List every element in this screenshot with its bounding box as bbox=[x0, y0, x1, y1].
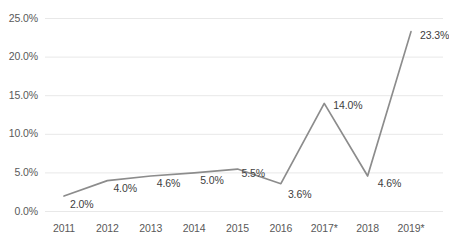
x-axis-tick-label: 2017* bbox=[311, 222, 338, 234]
y-axis-tick-label: 25.0% bbox=[0, 12, 38, 24]
x-axis-tick-label: 2012 bbox=[96, 222, 119, 234]
y-axis-tick-label: 15.0% bbox=[0, 89, 38, 101]
x-axis-tick-label: 2011 bbox=[53, 222, 75, 234]
x-axis-tick-label: 2015 bbox=[226, 222, 249, 234]
x-axis-tick-label: 2013 bbox=[139, 222, 162, 234]
x-axis-tick-label: 2016 bbox=[269, 222, 292, 234]
y-axis-tick-label: 20.0% bbox=[0, 50, 38, 62]
data-point-label: 4.6% bbox=[157, 177, 181, 189]
data-point-label: 23.3% bbox=[420, 29, 449, 41]
x-axis-tick-label: 2018 bbox=[356, 222, 379, 234]
data-point-label: 4.6% bbox=[378, 177, 402, 189]
data-point-label: 5.5% bbox=[242, 167, 266, 179]
data-series-line bbox=[64, 32, 411, 196]
y-axis-tick-label: 5.0% bbox=[0, 166, 38, 178]
y-axis-tick-label: 0.0% bbox=[0, 205, 38, 217]
x-axis-tick-label: 2014 bbox=[183, 222, 206, 234]
data-point-label: 2.0% bbox=[70, 198, 94, 210]
data-point-label: 3.6% bbox=[288, 188, 312, 200]
data-point-label: 5.0% bbox=[200, 174, 224, 186]
data-point-label: 14.0% bbox=[333, 99, 362, 111]
data-point-label: 4.0% bbox=[113, 182, 137, 194]
y-axis-tick-label: 10.0% bbox=[0, 127, 38, 139]
x-axis-tick-label: 2019* bbox=[398, 222, 425, 234]
